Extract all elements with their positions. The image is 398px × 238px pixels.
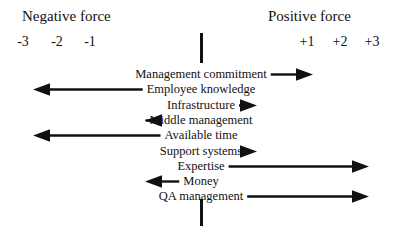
tick-minus-1: -1 — [78, 34, 102, 50]
force-row: Money — [0, 173, 398, 189]
force-arrow — [0, 112, 398, 128]
force-arrow — [0, 97, 398, 113]
positive-force-header: Positive force — [268, 8, 351, 25]
force-row: Management commitment — [0, 66, 398, 82]
tick-minus-2: -2 — [45, 34, 69, 50]
arrow-head — [145, 175, 162, 187]
arrow-head — [296, 68, 313, 80]
tick-plus-2: +2 — [328, 34, 352, 50]
arrow-head — [240, 99, 257, 111]
force-row: Infrastructure — [0, 97, 398, 113]
force-arrow — [0, 81, 398, 97]
force-row: Support systems — [0, 143, 398, 159]
force-arrow — [0, 143, 398, 159]
force-row: Expertise — [0, 158, 398, 174]
tick-plus-3: +3 — [360, 34, 384, 50]
force-arrow — [0, 188, 398, 204]
arrow-head — [352, 191, 369, 203]
center-axis-top — [200, 33, 203, 63]
force-row: Middle management — [0, 112, 398, 128]
force-arrow — [0, 127, 398, 143]
arrow-head — [352, 160, 369, 172]
force-row: Available time — [0, 127, 398, 143]
force-row: QA management — [0, 188, 398, 204]
tick-plus-1: +1 — [295, 34, 319, 50]
negative-force-header: Negative force — [22, 8, 111, 25]
tick-minus-3: -3 — [11, 34, 35, 50]
arrow-head — [33, 84, 50, 96]
force-field-diagram: Negative force Positive force -3 -2 -1 +… — [0, 0, 398, 238]
force-arrow — [0, 173, 398, 189]
force-arrow — [0, 66, 398, 82]
force-arrow — [0, 158, 398, 174]
arrow-head — [33, 129, 50, 141]
arrow-head — [145, 114, 162, 126]
force-row: Employee knowledge — [0, 81, 398, 97]
arrow-head — [240, 145, 257, 157]
